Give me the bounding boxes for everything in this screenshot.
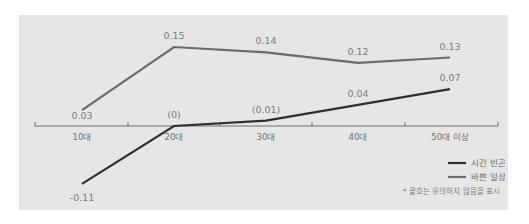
x-axis-label: 10대 bbox=[73, 132, 92, 142]
legend-label-time-poverty: 시간 빈곤 bbox=[471, 158, 506, 168]
data-label: (0.01) bbox=[252, 104, 281, 115]
data-label: 0.12 bbox=[347, 46, 368, 57]
legend-item-busy-life: 바쁜 일상 bbox=[448, 172, 506, 182]
x-axis-label: 20대 bbox=[165, 132, 184, 142]
data-labels: 0.030.150.140.120.13-0.11(0)(0.01)0.040.… bbox=[70, 30, 461, 203]
data-label: (0) bbox=[167, 109, 180, 120]
data-label: 0.03 bbox=[71, 110, 92, 121]
data-label: 0.14 bbox=[255, 35, 276, 46]
data-label: 0.04 bbox=[347, 88, 368, 99]
data-label: 0.15 bbox=[163, 30, 184, 41]
series-lines bbox=[82, 47, 450, 184]
data-label: -0.11 bbox=[70, 192, 95, 203]
x-axis-label: 50대 이상 bbox=[431, 132, 469, 142]
x-axis-label: 30대 bbox=[257, 132, 276, 142]
series-line-busy-life bbox=[82, 47, 450, 110]
x-axis-ticks bbox=[35, 122, 498, 126]
significance-note: * 괄호는 유의하지 않음을 표시 bbox=[403, 186, 500, 196]
x-axis-labels: 10대20대30대40대50대 이상 bbox=[73, 132, 469, 142]
data-label: 0.07 bbox=[439, 72, 460, 83]
legend-label-busy-life: 바쁜 일상 bbox=[471, 172, 506, 182]
x-axis-label: 40대 bbox=[349, 132, 368, 142]
data-label: 0.13 bbox=[439, 41, 460, 52]
legend-item-time-poverty: 시간 빈곤 bbox=[448, 158, 506, 168]
legend: 시간 빈곤 바쁜 일상 * 괄호는 유의하지 않음을 표시 bbox=[403, 158, 506, 196]
line-chart: 10대20대30대40대50대 이상 0.030.150.140.120.13-… bbox=[0, 0, 529, 224]
